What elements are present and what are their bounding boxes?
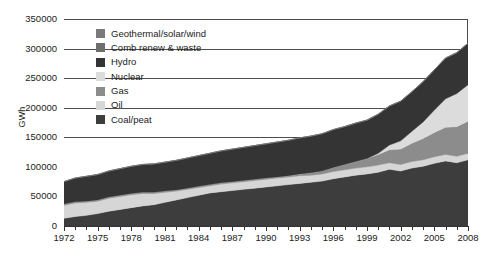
x-tick <box>423 226 424 230</box>
legend-item: Geothermal/solar/wind <box>96 28 206 39</box>
x-tick <box>401 226 402 231</box>
x-tick-label: 2008 <box>448 233 488 243</box>
legend-item: Coal/peat <box>96 114 206 125</box>
x-tick <box>199 226 200 231</box>
x-tick <box>221 226 222 230</box>
y-tick-label: 50000 <box>1 191 57 201</box>
x-tick <box>165 226 166 231</box>
legend-swatch-icon <box>96 43 105 52</box>
x-tick <box>109 226 110 230</box>
x-tick <box>64 226 65 231</box>
x-tick <box>378 226 379 230</box>
legend-swatch-icon <box>96 101 105 110</box>
legend-label: Oil <box>111 100 123 110</box>
x-tick <box>412 226 413 230</box>
x-tick <box>277 226 278 230</box>
x-tick <box>367 226 368 231</box>
x-tick <box>322 226 323 230</box>
legend-item: Oil <box>96 100 206 111</box>
x-tick <box>176 226 177 230</box>
legend-label: Coal/peat <box>111 115 152 125</box>
x-tick <box>244 226 245 230</box>
x-tick <box>356 226 357 230</box>
x-tick <box>288 226 289 230</box>
x-tick <box>187 226 188 230</box>
legend-label: Nuclear <box>111 72 144 82</box>
legend-swatch-icon <box>96 115 105 124</box>
legend-swatch-icon <box>96 72 105 81</box>
x-tick <box>232 226 233 231</box>
x-tick <box>131 226 132 231</box>
legend-label: Hydro <box>111 57 136 67</box>
x-tick <box>300 226 301 231</box>
x-tick <box>255 226 256 230</box>
y-tick-label: 250000 <box>1 73 57 83</box>
y-tick-label: 150000 <box>1 132 57 142</box>
legend-item: Gas <box>96 86 206 97</box>
legend-swatch-icon <box>96 87 105 96</box>
legend-label: Comb renew & waste <box>111 43 201 53</box>
y-tick-label: 100000 <box>1 162 57 172</box>
x-tick <box>266 226 267 231</box>
y-tick-label: 300000 <box>1 44 57 54</box>
legend-label: Geothermal/solar/wind <box>111 29 206 39</box>
stacked-area-chart: GWh 350000300000250000200000150000100000… <box>0 0 490 258</box>
x-tick <box>154 226 155 230</box>
x-tick <box>311 226 312 230</box>
x-tick <box>457 226 458 230</box>
legend: Geothermal/solar/windComb renew & wasteH… <box>96 28 206 125</box>
y-tick-label: 350000 <box>1 14 57 24</box>
legend-swatch-icon <box>96 58 105 67</box>
legend-label: Gas <box>111 86 128 96</box>
y-tick-label: 0 <box>1 221 57 231</box>
x-tick <box>143 226 144 230</box>
y-axis-tick-labels: 3500003000002500002000001500001000005000… <box>0 0 57 258</box>
x-tick <box>468 226 469 231</box>
x-tick <box>210 226 211 230</box>
y-tick-label: 200000 <box>1 103 57 113</box>
x-tick <box>98 226 99 231</box>
x-tick <box>389 226 390 230</box>
x-tick <box>75 226 76 230</box>
x-tick <box>434 226 435 231</box>
legend-item: Hydro <box>96 57 206 68</box>
x-tick <box>120 226 121 230</box>
legend-item: Nuclear <box>96 71 206 82</box>
x-tick <box>446 226 447 230</box>
x-tick <box>86 226 87 230</box>
x-tick <box>345 226 346 230</box>
x-tick <box>333 226 334 231</box>
legend-swatch-icon <box>96 29 105 38</box>
legend-item: Comb renew & waste <box>96 42 206 53</box>
